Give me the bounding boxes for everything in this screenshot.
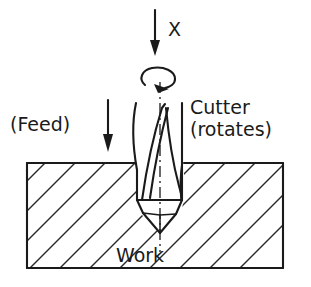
feed-label: (Feed)	[10, 113, 70, 135]
twist-drill-cutter	[133, 103, 182, 233]
rotation-arrow-icon	[141, 68, 175, 93]
axis-label: X	[168, 18, 181, 40]
drilling-diagram: X (Feed) Cutter (rotates) Work	[0, 0, 311, 287]
work-label: Work	[116, 244, 164, 266]
cutter-label-line1: Cutter	[190, 96, 250, 118]
down-arrow-icon	[150, 10, 160, 56]
cutter-label-line2: (rotates)	[190, 118, 272, 140]
down-arrow-icon	[103, 100, 113, 152]
diagram-canvas: X (Feed) Cutter (rotates) Work	[0, 0, 311, 287]
